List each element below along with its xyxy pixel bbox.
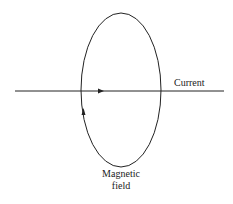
current-label: Current: [174, 77, 205, 89]
magnetic-field-label-line1: Magnetic: [96, 168, 146, 180]
current-direction-arrow-icon: [98, 89, 104, 94]
magnetic-field-loop: [81, 13, 161, 167]
magnetic-field-diagram: Current Magnetic field: [0, 0, 233, 204]
magnetic-field-label-line2: field: [96, 180, 146, 192]
magnetic-field-label: Magnetic field: [96, 168, 146, 192]
